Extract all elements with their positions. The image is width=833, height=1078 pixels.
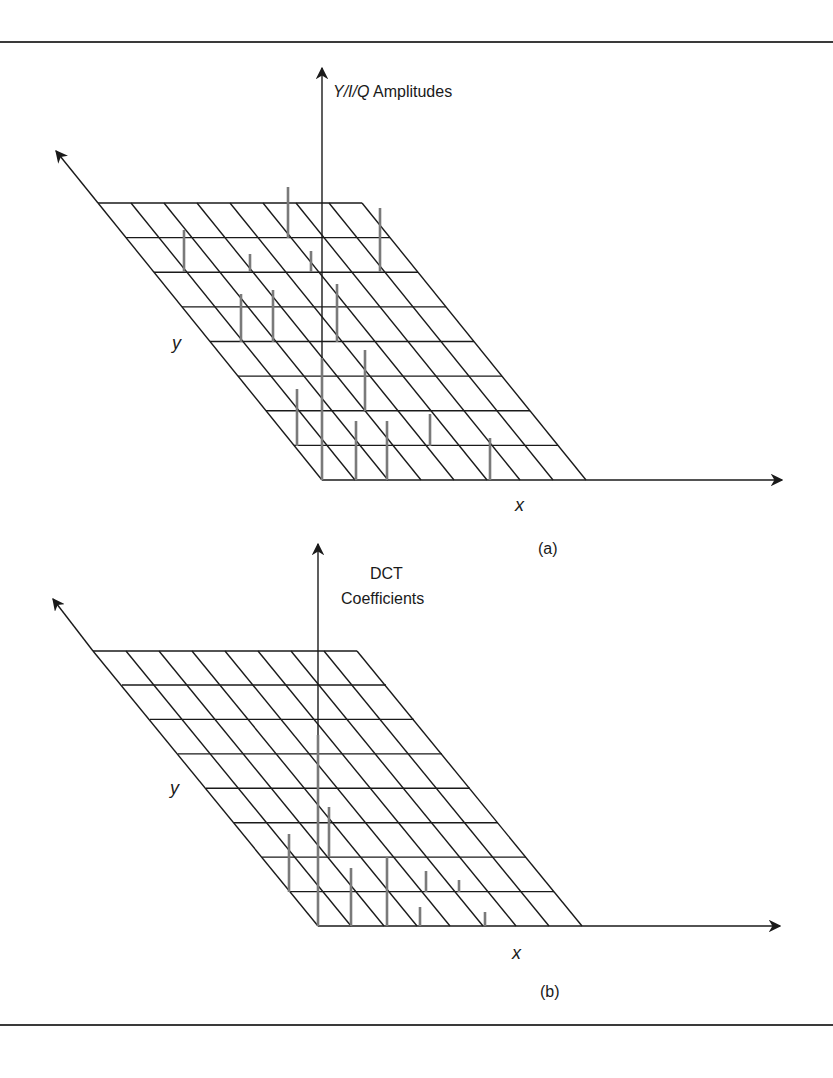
panel-a-z-axis-label: Y/I/Q Amplitudes	[333, 82, 452, 101]
panel-b-stems	[289, 735, 485, 926]
panel-b-x-label: x	[512, 944, 521, 963]
panel-b-grid	[93, 651, 582, 926]
panel-a-y-label: y	[172, 334, 181, 353]
panel-a	[56, 68, 782, 480]
panel-a-z-axis-label-italic: Y/I/Q	[333, 83, 369, 100]
panel-a-x-label: x	[515, 496, 524, 515]
panel-b-y-axis	[53, 599, 93, 651]
panel-b-z-axis-label-line2: Coefficients	[341, 589, 424, 608]
panel-a-caption: (a)	[538, 540, 558, 558]
panel-a-z-axis-label-rest: Amplitudes	[369, 83, 452, 100]
panel-b-z-axis-label-line1: DCT	[370, 564, 403, 583]
panel-b-y-label: y	[170, 779, 179, 798]
dct-figure	[0, 0, 833, 1078]
panel-b-caption: (b)	[540, 983, 560, 1001]
panel-a-stems	[184, 187, 490, 480]
panel-a-y-axis	[56, 151, 98, 203]
